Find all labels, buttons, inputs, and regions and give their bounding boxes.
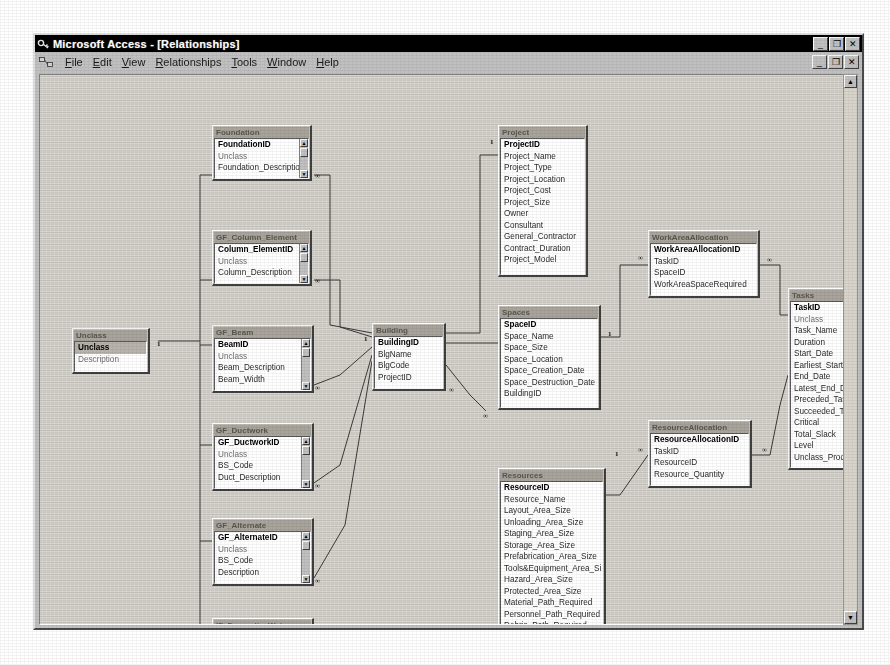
field-row[interactable]: Project_Size (501, 197, 584, 209)
field-row[interactable]: Resource_Name (501, 494, 602, 506)
field-row[interactable]: Level (791, 440, 847, 452)
field-scroll-thumb[interactable] (302, 348, 310, 357)
field-row[interactable]: Hazard_Area_Size (501, 574, 602, 586)
field-row[interactable]: Total_Slack (791, 429, 847, 441)
field-row[interactable]: Unclass (215, 544, 310, 556)
table-caption[interactable]: IF_Domestic_Water (214, 620, 311, 625)
field-row[interactable]: Foundation_Description (215, 162, 308, 174)
relationship-line[interactable] (446, 155, 498, 333)
field-row[interactable]: Unclass (215, 256, 308, 268)
field-row[interactable]: Preceded_Task (791, 394, 847, 406)
field-scroll-thumb[interactable] (300, 148, 308, 157)
relationship-line[interactable] (314, 280, 372, 337)
table-caption[interactable]: Resources (500, 470, 603, 481)
field-list[interactable]: FoundationIDUnclassFoundation_Descriptio… (214, 138, 309, 179)
field-list-scrollbar[interactable]: ▲▼ (299, 244, 308, 283)
field-row[interactable]: Space_Destruction_Date (501, 377, 597, 389)
field-list[interactable]: TaskIDUnclassTask_NameDurationStart_Date… (790, 301, 847, 468)
field-row[interactable]: Debris_Path_Required (501, 620, 602, 625)
relationship-line[interactable] (760, 265, 788, 315)
field-row[interactable]: Project_Model (501, 254, 584, 266)
menu-view[interactable]: View (117, 55, 151, 69)
table-box-tasks[interactable]: TasksTaskIDUnclassTask_NameDurationStart… (788, 288, 847, 470)
table-box-spaces[interactable]: SpacesSpaceIDSpace_NameSpace_SizeSpace_L… (498, 305, 601, 410)
table-box-project[interactable]: ProjectProjectIDProject_NameProject_Type… (498, 125, 588, 277)
field-row[interactable]: Staging_Area_Size (501, 528, 602, 540)
table-caption[interactable]: GF_Beam (214, 327, 311, 338)
scroll-up-arrow-icon[interactable]: ▲ (844, 75, 857, 88)
relationship-line[interactable] (314, 175, 372, 333)
field-row[interactable]: GF_AlternateID (215, 532, 310, 544)
field-row[interactable]: Beam_Description (215, 362, 310, 374)
field-row[interactable]: Storage_Area_Size (501, 540, 602, 552)
field-row[interactable]: TaskID (791, 302, 847, 314)
menu-help[interactable]: Help (311, 55, 344, 69)
field-row[interactable]: Task_Name (791, 325, 847, 337)
relationship-line[interactable] (606, 455, 648, 495)
field-row[interactable]: TaskID (651, 446, 748, 458)
mdi-minimize-button[interactable]: _ (812, 55, 827, 69)
field-row[interactable]: Project_Cost (501, 185, 584, 197)
table-caption[interactable]: Foundation (214, 127, 309, 138)
relationship-line[interactable] (314, 347, 372, 385)
canvas-vertical-scrollbar[interactable]: ▲ ▼ (843, 74, 858, 625)
field-row[interactable]: Project_Location (501, 174, 584, 186)
field-row[interactable]: Start_Date (791, 348, 847, 360)
field-list[interactable]: ResourceAllocationIDTaskIDResourceIDReso… (650, 433, 749, 486)
field-row[interactable]: BS_Code (215, 555, 310, 567)
field-row[interactable]: BuildingID (375, 337, 442, 349)
field-list-scrollbar[interactable]: ▲▼ (301, 532, 310, 583)
relationship-line[interactable] (314, 361, 372, 578)
field-row[interactable]: Critical (791, 417, 847, 429)
field-row[interactable]: Column_ElementID (215, 244, 308, 256)
menu-edit[interactable]: Edit (88, 55, 117, 69)
field-scroll-down-arrow-icon[interactable]: ▼ (300, 170, 308, 178)
field-row[interactable]: Resource_Quantity (651, 469, 748, 481)
field-list-scrollbar[interactable]: ▲▼ (299, 139, 308, 178)
field-row[interactable]: Project_Type (501, 162, 584, 174)
field-row[interactable]: Unclass (215, 351, 310, 363)
field-row[interactable]: SpaceID (501, 319, 597, 331)
table-caption[interactable]: GF_Ductwork (214, 425, 311, 436)
menu-window[interactable]: Window (262, 55, 311, 69)
field-row[interactable]: Consultant (501, 220, 584, 232)
field-list[interactable]: GF_AlternateIDUnclassBS_CodeDescription▲… (214, 531, 311, 584)
field-list[interactable]: GF_DuctworkIDUnclassBS_CodeDuct_Descript… (214, 436, 311, 489)
field-row[interactable]: Layout_Area_Size (501, 505, 602, 517)
field-list[interactable]: WorkAreaAllocationIDTaskIDSpaceIDWorkAre… (650, 243, 757, 296)
relationship-line[interactable] (601, 265, 648, 337)
table-box-building[interactable]: BuildingBuildingIDBlgNameBlgCodeProjectI… (372, 323, 446, 391)
field-row[interactable]: Space_Name (501, 331, 597, 343)
field-scroll-thumb[interactable] (302, 446, 310, 455)
field-list-scrollbar[interactable]: ▲▼ (301, 437, 310, 488)
field-row[interactable]: Succeeded_Task (791, 406, 847, 418)
table-box-workareaallocation[interactable]: WorkAreaAllocationWorkAreaAllocationIDTa… (648, 230, 760, 298)
field-row[interactable]: Unclass (215, 151, 308, 163)
mdi-restore-button[interactable]: ❐ (828, 55, 843, 69)
table-box-resourceallocation[interactable]: ResourceAllocationResourceAllocationIDTa… (648, 420, 752, 488)
field-scroll-down-arrow-icon[interactable]: ▼ (302, 480, 310, 488)
table-box-unclass[interactable]: UnclassUnclassDescription (72, 328, 150, 374)
field-row[interactable]: FoundationID (215, 139, 308, 151)
field-row[interactable]: Protected_Area_Size (501, 586, 602, 598)
field-row[interactable]: ResourceID (501, 482, 602, 494)
close-button[interactable]: ✕ (845, 37, 860, 51)
field-row[interactable]: Project_Name (501, 151, 584, 163)
field-row[interactable]: BlgName (375, 349, 442, 361)
menu-file[interactable]: File (60, 55, 88, 69)
relationship-line[interactable] (314, 355, 372, 483)
field-row[interactable]: Space_Location (501, 354, 597, 366)
minimize-button[interactable]: _ (813, 37, 828, 51)
field-row[interactable]: Contract_Duration (501, 243, 584, 255)
field-list[interactable]: BuildingIDBlgNameBlgCodeProjectID (374, 336, 443, 389)
field-row[interactable]: BlgCode (375, 360, 442, 372)
field-row[interactable]: ProjectID (501, 139, 584, 151)
table-box-resources[interactable]: ResourcesResourceIDResource_NameLayout_A… (498, 468, 606, 625)
table-box-gf_column_element[interactable]: GF_Column_ElementColumn_ElementIDUnclass… (212, 230, 312, 286)
field-scroll-down-arrow-icon[interactable]: ▼ (302, 382, 310, 390)
field-row[interactable]: WorkAreaAllocationID (651, 244, 756, 256)
field-list[interactable]: Column_ElementIDUnclassColumn_Descriptio… (214, 243, 309, 284)
field-row[interactable]: ProjectID (375, 372, 442, 384)
field-row[interactable]: End_Date (791, 371, 847, 383)
field-list[interactable]: SpaceIDSpace_NameSpace_SizeSpace_Locatio… (500, 318, 598, 408)
